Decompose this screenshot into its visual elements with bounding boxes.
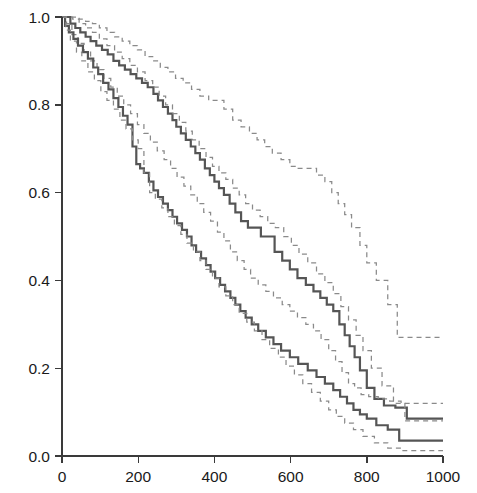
survival-curve-5 xyxy=(62,17,443,421)
y-tick-label-0.2: 0.2 xyxy=(28,360,50,377)
survival-curve-1 xyxy=(62,17,443,419)
y-tick-label-0.0: 0.0 xyxy=(28,448,50,465)
y-tick-label-0.6: 0.6 xyxy=(28,184,50,201)
x-tick-label-600: 600 xyxy=(278,468,304,485)
x-tick-label-200: 200 xyxy=(125,468,151,485)
y-tick-label-0.4: 0.4 xyxy=(28,272,50,289)
axes-layer xyxy=(55,17,443,463)
survival-plot-canvas: 020040060080010000.00.20.40.60.81.0 xyxy=(0,0,477,493)
survival-curve-3 xyxy=(62,17,443,403)
tick-labels-layer: 020040060080010000.00.20.40.60.81.0 xyxy=(28,9,460,486)
curves-layer xyxy=(62,17,443,451)
x-tick-label-1000: 1000 xyxy=(426,468,461,485)
x-tick-label-0: 0 xyxy=(58,468,67,485)
x-tick-label-400: 400 xyxy=(201,468,227,485)
y-tick-label-1.0: 1.0 xyxy=(28,9,50,26)
x-tick-label-800: 800 xyxy=(354,468,380,485)
y-tick-label-0.8: 0.8 xyxy=(28,96,50,113)
survival-curve-6 xyxy=(62,17,443,451)
kaplan-meier-figure: 020040060080010000.00.20.40.60.81.0 xyxy=(0,0,477,493)
